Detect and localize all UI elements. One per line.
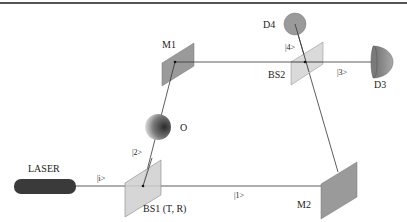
laser-label: LASER <box>28 163 60 174</box>
beam-splitter-bs2 <box>291 42 323 85</box>
ket-out4: |4> <box>285 43 296 52</box>
m2-label: M2 <box>297 199 311 210</box>
ket-path2: |2> <box>132 148 143 157</box>
object-label: O <box>180 122 187 133</box>
d4-label: D4 <box>263 19 275 30</box>
detector-d3-rim <box>371 46 377 78</box>
beam-paths <box>76 24 372 186</box>
bs1-label: BS1 (T, R) <box>143 203 186 215</box>
d3-label: D3 <box>374 79 386 90</box>
ket-input: |i> <box>97 174 106 183</box>
interferometer-diagram: LASER BS1 (T, R) |i> |1> |2> O M1 BS2 D4… <box>0 0 407 222</box>
bs1-point <box>142 185 145 188</box>
ket-out3: |3> <box>337 68 348 77</box>
mirror-m2 <box>321 162 357 219</box>
m1-point <box>174 61 177 64</box>
object-sphere <box>145 114 171 140</box>
top-rule <box>0 2 407 4</box>
bs2-label: BS2 <box>268 69 285 80</box>
ket-path1: |1> <box>234 191 245 200</box>
laser <box>14 179 76 194</box>
m1-label: M1 <box>162 39 176 50</box>
bs2-point <box>304 61 307 64</box>
